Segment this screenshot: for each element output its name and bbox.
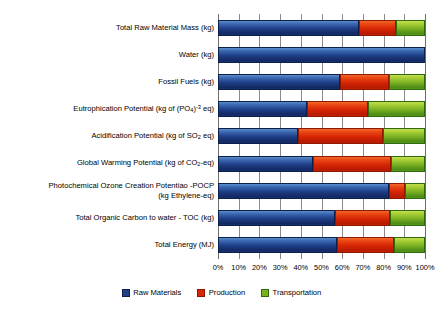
- bar-segment-prod[interactable]: [298, 128, 383, 144]
- bar-segment-trans[interactable]: [390, 210, 425, 226]
- x-axis-tick-label: 70%: [355, 263, 370, 273]
- bar-track: [218, 20, 425, 36]
- category-label: Water (kg): [0, 50, 218, 59]
- bar-segment-prod[interactable]: [313, 156, 391, 172]
- x-axis-tick-label: 100%: [416, 263, 435, 273]
- bar-segment-raw[interactable]: [218, 237, 337, 253]
- bar-row: Eutrophication Potential (kg of (PO4)-3 …: [0, 96, 443, 123]
- bar-segment-raw[interactable]: [218, 101, 307, 117]
- bar-row: Global Warming Potential (kg of CO2-eq): [0, 150, 443, 177]
- bar-row: Water (kg): [0, 41, 443, 68]
- bar-track: [218, 101, 425, 117]
- legend-label: Production: [209, 288, 245, 297]
- x-axis-tick-label: 80%: [376, 263, 391, 273]
- category-label: Total Organic Carbon to water - TOC (kg): [0, 213, 218, 222]
- bar-segment-trans[interactable]: [394, 237, 425, 253]
- x-axis-tick-label: 0%: [213, 263, 224, 273]
- x-axis-tick-label: 20%: [252, 263, 267, 273]
- bar-segment-trans[interactable]: [368, 101, 425, 117]
- category-label: Global Warming Potential (kg of CO2-eq): [0, 158, 218, 169]
- bar-track: [218, 128, 425, 144]
- bar-segment-prod[interactable]: [335, 210, 390, 226]
- legend-swatch-icon: [122, 289, 130, 297]
- bar-track: [218, 183, 425, 199]
- legend-item[interactable]: Transportation: [261, 288, 321, 297]
- bar-segment-trans[interactable]: [405, 183, 425, 199]
- legend-label: Transportation: [273, 288, 322, 297]
- legend-label: Raw Materials: [133, 288, 181, 297]
- category-label: Total Raw Material Mass (kg): [0, 23, 218, 32]
- category-label: Fossil Fuels (kg): [0, 77, 218, 86]
- legend-item[interactable]: Production: [197, 288, 245, 297]
- legend-item[interactable]: Raw Materials: [122, 288, 182, 297]
- bar-segment-prod[interactable]: [359, 20, 396, 36]
- bar-segment-prod[interactable]: [389, 183, 406, 199]
- chart-legend: Raw MaterialsProductionTransportation: [0, 288, 443, 297]
- plot-area: Total Raw Material Mass (kg)Water (kg)Fo…: [0, 14, 443, 264]
- category-label: Total Energy (MJ): [0, 240, 218, 249]
- bar-segment-raw[interactable]: [218, 128, 298, 144]
- bar-track: [218, 237, 425, 253]
- bar-row: Total Energy (MJ): [0, 232, 443, 259]
- stacked-bar-chart: Total Raw Material Mass (kg)Water (kg)Fo…: [0, 0, 443, 313]
- bar-segment-trans[interactable]: [396, 20, 425, 36]
- bar-segment-raw[interactable]: [218, 183, 389, 199]
- bar-segment-prod[interactable]: [340, 74, 389, 90]
- bar-track: [218, 210, 425, 226]
- x-axis-tick-label: 90%: [397, 263, 412, 273]
- bar-track: [218, 47, 425, 63]
- bar-row: Photochemical Ozone Creation Potentiao -…: [0, 177, 443, 204]
- x-axis-tick-label: 10%: [231, 263, 246, 273]
- bar-segment-prod[interactable]: [337, 237, 394, 253]
- x-axis-tick-label: 40%: [293, 263, 308, 273]
- bar-segment-raw[interactable]: [218, 210, 335, 226]
- bar-segment-prod[interactable]: [307, 101, 368, 117]
- bar-segment-trans[interactable]: [383, 128, 425, 144]
- category-label: Eutrophication Potential (kg of (PO4)-3 …: [0, 103, 218, 116]
- bar-segment-raw[interactable]: [218, 20, 359, 36]
- bar-row: Total Raw Material Mass (kg): [0, 14, 443, 41]
- category-label: Photochemical Ozone Creation Potentiao -…: [0, 181, 218, 201]
- legend-swatch-icon: [261, 289, 269, 297]
- category-label: Acidification Potential (kg of SO2 eq): [0, 131, 218, 142]
- bar-row: Total Organic Carbon to water - TOC (kg): [0, 204, 443, 231]
- bar-rows: Total Raw Material Mass (kg)Water (kg)Fo…: [0, 14, 443, 264]
- bar-row: Fossil Fuels (kg): [0, 68, 443, 95]
- x-axis-tick-label: 30%: [273, 263, 288, 273]
- legend-swatch-icon: [197, 289, 205, 297]
- bar-track: [218, 74, 425, 90]
- bar-segment-raw[interactable]: [218, 47, 425, 63]
- bar-row: Acidification Potential (kg of SO2 eq): [0, 123, 443, 150]
- bar-segment-raw[interactable]: [218, 74, 340, 90]
- x-axis-tick-label: 50%: [314, 263, 329, 273]
- bar-segment-trans[interactable]: [391, 156, 425, 172]
- bar-track: [218, 156, 425, 172]
- bar-segment-raw[interactable]: [218, 156, 313, 172]
- x-axis-tick-label: 60%: [335, 263, 350, 273]
- bar-segment-trans[interactable]: [389, 74, 425, 90]
- x-axis: 0%10%20%30%40%50%60%70%80%90%100%: [218, 263, 425, 275]
